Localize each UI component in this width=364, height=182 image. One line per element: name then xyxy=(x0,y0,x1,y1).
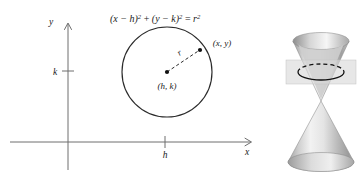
equation-expression: (x − h)2 + (y − k)2 = r2 xyxy=(110,13,201,25)
y-tick-label-k: k xyxy=(53,67,58,77)
circle-center-label: (h, k) xyxy=(158,81,177,91)
equation-term-y: (y − k) xyxy=(152,13,180,25)
radius-segment xyxy=(167,51,199,73)
figure-canvas: y x k h (h, k) (x, y) r (x − h)2 + (y − … xyxy=(0,0,364,182)
equation-equals: = xyxy=(182,13,193,24)
lower-cone-base-ellipse xyxy=(288,153,354,172)
x-axis-label: x xyxy=(244,147,250,157)
equation-plus: + xyxy=(141,13,152,24)
double-cone-group xyxy=(286,33,356,172)
circle-conic-figure: y x k h (h, k) (x, y) r (x − h)2 + (y − … xyxy=(0,0,364,182)
circle-equation: (x − h)2 + (y − k)2 = r2 xyxy=(110,13,201,25)
circle-point-dot xyxy=(198,48,202,52)
radius-label: r xyxy=(175,47,184,58)
circle-center-dot xyxy=(165,70,169,74)
equation-term-x: (x − h) xyxy=(110,13,139,25)
coordinate-plane-group: y x k h (h, k) (x, y) r (x − h)2 + (y − … xyxy=(10,13,252,170)
x-tick-label-h: h xyxy=(163,150,168,160)
circle-point-label: (x, y) xyxy=(213,38,231,48)
y-axis-label: y xyxy=(48,17,54,27)
equation-exp-3: 2 xyxy=(197,13,201,20)
